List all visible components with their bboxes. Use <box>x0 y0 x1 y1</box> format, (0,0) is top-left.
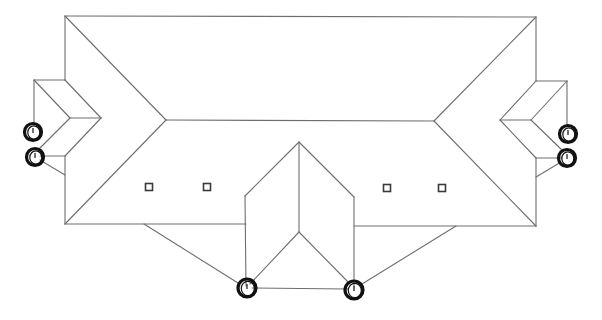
roof-line-rw-valley-out <box>500 120 536 158</box>
roof-line-g-left-rake <box>245 142 299 196</box>
roof-line-left-hip-top <box>65 16 166 120</box>
roof-line-g-left-wall <box>245 196 246 286</box>
roof-line-g-bottom <box>252 288 348 289</box>
roof-line-lw-inner-hip <box>34 80 70 118</box>
roof-line-lw-tail <box>40 160 65 175</box>
roof-line-main-ridge <box>166 120 434 121</box>
roof-line-g-right-rake <box>299 142 354 197</box>
roof-line-g-diag-left <box>144 224 238 283</box>
circle-marker-icon <box>25 124 42 141</box>
roof-plan-diagram <box>0 0 602 320</box>
vent-square-icon <box>146 184 153 191</box>
roof-line-rw-outer-hip <box>500 81 536 120</box>
circle-marker-icon <box>345 281 363 299</box>
roof-line-g-valley-right <box>299 232 350 284</box>
roof-line-right-hip-bottom <box>434 121 536 226</box>
vent-square-icon <box>204 184 211 191</box>
roof-line-g-diag-right <box>362 226 456 284</box>
roof-line-top-eave <box>65 16 536 17</box>
roof-line-rw-tail <box>536 162 561 177</box>
vent-square-icon <box>439 185 446 192</box>
circle-marker-icon <box>27 149 44 166</box>
roof-line-left-hip-bottom <box>65 120 166 224</box>
roof-line-lw-valley-out <box>65 118 101 156</box>
roof-edges <box>34 16 567 289</box>
circle-marker-icon <box>560 126 577 143</box>
vent-square-icon <box>384 185 391 192</box>
roof-vents <box>146 184 446 192</box>
roof-line-rw-inner-hip <box>531 81 567 120</box>
roof-line-lw-outer-hip <box>65 80 101 118</box>
roof-line-g-valley-left <box>250 232 299 284</box>
corner-markers <box>25 124 577 300</box>
roof-line-right-hip-top <box>434 17 536 121</box>
